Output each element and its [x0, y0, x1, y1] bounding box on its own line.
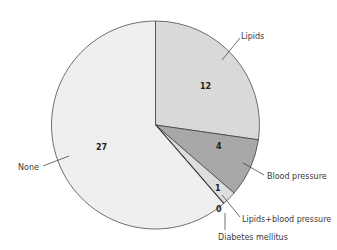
category-label-lipids-bp: Lipids+blood pressure — [242, 215, 331, 224]
category-label-diabetes: Diabetes mellitus — [218, 233, 288, 242]
value-label-diabetes: 0 — [216, 205, 222, 214]
value-label-blood-pressure: 4 — [216, 142, 222, 151]
category-label-blood-pressure: Blood pressure — [267, 172, 327, 181]
pie-chart: 12 4 1 0 27 Lipids Blood pressure Lipids… — [0, 0, 337, 250]
value-label-none: 27 — [96, 143, 107, 152]
value-label-lipids: 12 — [200, 82, 211, 91]
value-label-lipids-bp: 1 — [215, 184, 221, 193]
category-label-none: None — [18, 163, 39, 172]
category-label-lipids: Lipids — [241, 32, 264, 41]
